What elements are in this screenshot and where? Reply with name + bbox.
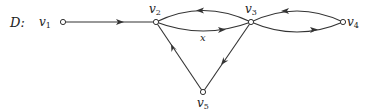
edge-v3-v4 bbox=[251, 22, 343, 33]
node-v4 bbox=[340, 19, 345, 24]
node-label-v4: v4 bbox=[347, 15, 359, 30]
arrow-down-icon bbox=[221, 57, 228, 65]
edge-v5-v2 bbox=[156, 22, 203, 92]
node-label-v5: v5 bbox=[197, 96, 209, 111]
edge-v1-v2 bbox=[66, 19, 153, 25]
node-v2 bbox=[153, 19, 158, 24]
arrow-up-icon bbox=[171, 44, 177, 52]
digraph-D: D: x v1 v2 v3 v4 v5 bbox=[0, 0, 367, 112]
node-label-v3: v3 bbox=[245, 2, 257, 17]
edge-v3-v5 bbox=[203, 22, 251, 92]
edge-label-x: x bbox=[200, 32, 206, 43]
edge-v3-v2 bbox=[156, 8, 251, 22]
node-v1 bbox=[60, 19, 65, 24]
edge-v2-v3: x bbox=[156, 22, 251, 43]
node-v3 bbox=[248, 19, 253, 24]
node-label-v1: v1 bbox=[39, 15, 51, 30]
node-label-v2: v2 bbox=[149, 2, 161, 17]
arrow-right-icon bbox=[310, 27, 318, 33]
node-v5 bbox=[200, 89, 205, 94]
graph-name-label: D: bbox=[9, 15, 25, 30]
edge-v4-v3 bbox=[251, 8, 343, 22]
